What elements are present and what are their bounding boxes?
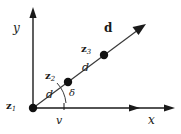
- direction-ray-arrowhead: [133, 24, 147, 35]
- y-axis: [29, 7, 36, 108]
- point-label-z2-base: z: [45, 70, 51, 81]
- x-axis-arrowhead: [164, 104, 175, 111]
- angle-arc: [57, 83, 66, 103]
- segment-label-d-upper: d: [82, 62, 89, 73]
- segment-label-d-lower: d: [46, 89, 53, 100]
- point-label-z2: z2: [45, 71, 55, 81]
- point-label-z3: z3: [81, 44, 91, 54]
- point-label-z3-sub: 3: [87, 48, 91, 56]
- point-label-z2-sub: 2: [51, 75, 55, 83]
- point-z3-dot: [100, 51, 108, 59]
- x-axis: [33, 104, 175, 111]
- point-z2-dot: [64, 78, 72, 86]
- angle-label-delta: δ: [69, 88, 75, 98]
- point-label-z1-base: z: [6, 100, 12, 111]
- point-label-z1-sub: 1: [12, 105, 16, 113]
- y-axis-label: y: [13, 22, 20, 34]
- y-axis-arrowhead: [29, 7, 36, 18]
- vector-points-diagram: y x z1 z2 z3 d d d δ v: [0, 0, 181, 134]
- x-axis-mid-arrowhead: [129, 104, 140, 111]
- offset-label-v: v: [56, 115, 62, 126]
- direction-vector-label: d: [104, 22, 112, 34]
- point-label-z3-base: z: [81, 43, 87, 54]
- point-z1-dot: [29, 104, 37, 112]
- point-label-z1: z1: [6, 101, 16, 111]
- x-axis-label: x: [148, 114, 155, 126]
